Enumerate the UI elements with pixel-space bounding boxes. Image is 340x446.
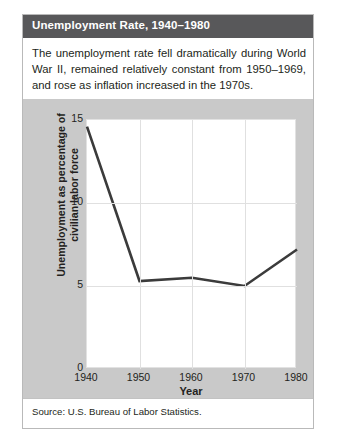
y-tick-label: 10 [61,195,83,207]
page-title: Unemployment Rate, 1940–1980 [32,19,210,31]
x-tick-label: 1970 [224,371,264,383]
y-tick-label: 15 [61,112,83,124]
y-axis-ticks: 051015 [59,119,83,368]
figure-container: Unemployment Rate, 1940–1980 The unemplo… [22,14,314,429]
description-text: The unemployment rate fell dramatically … [32,45,306,94]
figure-title-bar: Unemployment Rate, 1940–1980 [23,15,314,38]
x-tick-label: 1980 [276,371,314,383]
chart-area: Unemployment as percentage of civilian l… [23,99,314,398]
figure-description: The unemployment rate fell dramatically … [23,38,314,99]
x-tick-label: 1950 [119,371,159,383]
x-axis-ticks: 19401950196019701980 [86,371,296,385]
x-tick-label: 1960 [171,371,211,383]
gridline-vertical [192,120,193,369]
plot-frame [86,119,296,368]
y-tick-label: 5 [61,278,83,290]
x-axis-title: Year [86,385,296,397]
source-text: Source: U.S. Bureau of Labor Statistics. [32,406,202,417]
gridline-vertical [245,120,246,369]
gridline-vertical [140,120,141,369]
figure-source-footer: Source: U.S. Bureau of Labor Statistics. [23,398,314,429]
x-tick-label: 1940 [66,371,106,383]
